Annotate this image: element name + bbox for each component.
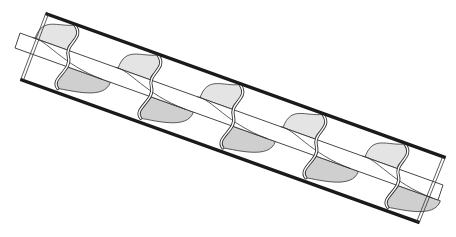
center-shaft [15,33,443,200]
shaft-body [15,33,443,200]
flight-ridges [56,25,408,207]
screw-conveyor-illustration [0,0,456,237]
screw-conveyor-diagram: screw-conveyor [0,0,456,237]
